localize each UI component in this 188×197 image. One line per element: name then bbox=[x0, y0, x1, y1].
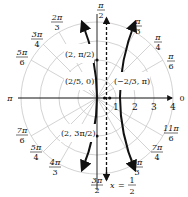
directrix-label: x = 1 2 bbox=[110, 176, 136, 196]
svg-text:5π: 5π bbox=[31, 143, 42, 152]
angle-label-pi-over-2: π 2 bbox=[97, 1, 105, 20]
angle-label-7pi-over-6: 7π 6 bbox=[16, 126, 28, 145]
svg-text:6: 6 bbox=[168, 62, 173, 71]
label-2-3pi-2: (2, 3π/2) bbox=[61, 129, 96, 138]
angle-label-pi-over-3: π 3 bbox=[134, 17, 142, 36]
svg-text:2: 2 bbox=[129, 187, 134, 196]
svg-text:π: π bbox=[97, 1, 104, 10]
svg-text:1: 1 bbox=[129, 176, 134, 185]
svg-text:6: 6 bbox=[19, 58, 24, 67]
svg-text:5π: 5π bbox=[17, 48, 28, 57]
tick-3: 3 bbox=[151, 102, 157, 112]
point-neg2-3-pi bbox=[108, 96, 111, 99]
angle-label-pi-over-4: π 4 bbox=[154, 33, 162, 52]
angle-label-pi: π bbox=[6, 94, 13, 103]
angle-label-5pi-over-4: 5π 4 bbox=[30, 143, 42, 162]
svg-text:7π: 7π bbox=[152, 143, 163, 152]
svg-text:x: x bbox=[110, 181, 115, 190]
svg-text:3: 3 bbox=[54, 23, 59, 32]
angle-label-zero: 0 bbox=[179, 94, 184, 103]
tick-4: 4 bbox=[170, 102, 176, 112]
svg-text:11π: 11π bbox=[163, 124, 179, 133]
svg-text:π: π bbox=[167, 52, 174, 61]
angle-label-3pi-over-2: 3π 2 bbox=[91, 176, 103, 195]
svg-text:4: 4 bbox=[33, 153, 38, 162]
svg-text:4: 4 bbox=[154, 153, 159, 162]
svg-text:7π: 7π bbox=[17, 126, 28, 135]
angle-label-5pi-over-6: 5π 6 bbox=[16, 48, 28, 67]
svg-text:3: 3 bbox=[52, 168, 57, 177]
svg-text:2: 2 bbox=[94, 186, 99, 195]
svg-text:π: π bbox=[134, 17, 141, 26]
svg-text:4π: 4π bbox=[49, 158, 61, 167]
tick-2: 2 bbox=[132, 102, 138, 112]
svg-text:4: 4 bbox=[155, 43, 160, 52]
angle-label-11pi-over-6: 11π 6 bbox=[163, 124, 179, 143]
svg-text:4: 4 bbox=[34, 40, 39, 49]
svg-text:3: 3 bbox=[134, 168, 139, 177]
label-2-5-0: (2/5, 0) bbox=[65, 77, 94, 86]
svg-text:=: = bbox=[118, 181, 125, 190]
label-neg2-3-pi: (−2/3, π) bbox=[114, 77, 150, 86]
svg-text:5π: 5π bbox=[132, 158, 143, 167]
svg-text:6: 6 bbox=[19, 136, 24, 145]
angle-label-7pi-over-4: 7π 4 bbox=[151, 143, 163, 162]
svg-text:2π: 2π bbox=[51, 13, 63, 22]
svg-text:3π: 3π bbox=[32, 30, 43, 39]
svg-text:2: 2 bbox=[98, 11, 103, 20]
svg-text:6: 6 bbox=[168, 134, 173, 143]
radial-tick-labels: 1 2 3 4 bbox=[113, 102, 176, 112]
angle-label-pi-over-6: π 6 bbox=[167, 52, 175, 71]
svg-text:3: 3 bbox=[135, 27, 140, 36]
point-2-5-0 bbox=[103, 96, 106, 99]
tick-1: 1 bbox=[113, 102, 119, 112]
hyperbola-right-branch bbox=[120, 22, 135, 170]
angle-label-4pi-over-3: 4π 3 bbox=[49, 158, 61, 177]
angle-label-5pi-over-3: 5π 3 bbox=[131, 158, 143, 177]
polar-graph: 1 2 3 4 π 2 π 3 π 4 π 6 0 2π bbox=[0, 0, 188, 197]
svg-text:3π: 3π bbox=[92, 176, 103, 185]
point-2-pi-2 bbox=[95, 58, 98, 61]
svg-text:π: π bbox=[154, 33, 161, 42]
label-2-pi-2: (2, π/2) bbox=[65, 50, 94, 59]
angle-label-2pi-over-3: 2π 3 bbox=[51, 13, 63, 32]
